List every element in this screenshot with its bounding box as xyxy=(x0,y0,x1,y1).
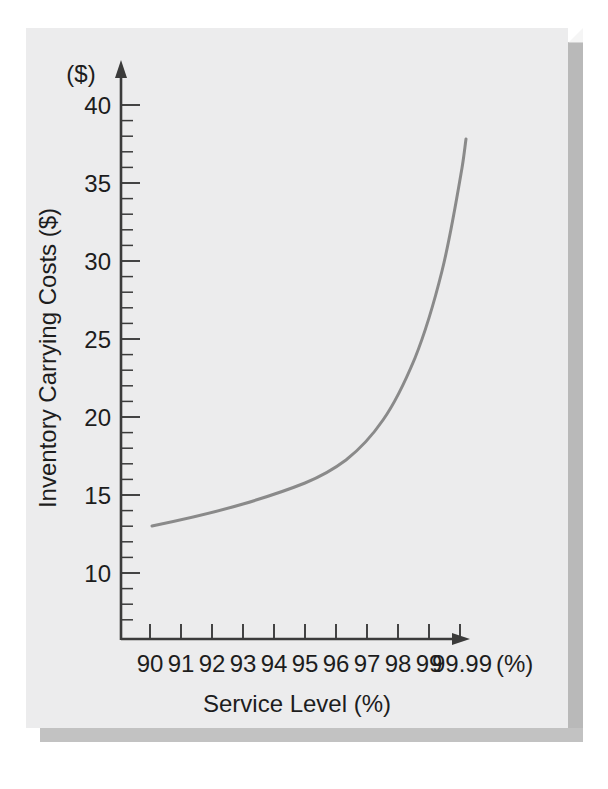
x-tick-label: 93 xyxy=(230,650,257,677)
panel-drop-shadow-bottom xyxy=(40,728,583,742)
figure-panel: 40 35 30 25 20 15 10 90 91 92 93 94 95 9… xyxy=(26,28,568,728)
panel-drop-shadow-right xyxy=(568,42,583,742)
line-chart-svg: 40 35 30 25 20 15 10 90 91 92 93 94 95 9… xyxy=(26,28,568,728)
x-axis-tick-labels: 90 91 92 93 94 95 96 97 98 99 99.99 xyxy=(137,650,492,677)
y-tick-label: 35 xyxy=(84,170,111,197)
x-axis-ticks xyxy=(150,624,460,639)
y-axis-tick-labels: 40 35 30 25 20 15 10 xyxy=(84,92,111,587)
y-tick-label: 15 xyxy=(84,482,111,509)
x-tick-label: 97 xyxy=(354,650,381,677)
y-tick-label: 10 xyxy=(84,560,111,587)
x-axis xyxy=(121,633,470,645)
x-axis-arrow-icon xyxy=(452,633,470,645)
x-tick-label: 91 xyxy=(168,650,195,677)
inventory-cost-curve xyxy=(152,139,466,526)
chart-plot-area: 40 35 30 25 20 15 10 90 91 92 93 94 95 9… xyxy=(26,28,568,728)
y-axis xyxy=(115,60,127,640)
x-tick-label: 99.99 xyxy=(432,650,492,677)
x-axis-unit-label: (%) xyxy=(496,650,533,677)
x-tick-label: 92 xyxy=(199,650,226,677)
y-axis-major-ticks xyxy=(121,105,140,573)
x-tick-label: 98 xyxy=(385,650,412,677)
panel-shadow-corner xyxy=(568,28,583,43)
x-axis-title: Service Level (%) xyxy=(203,690,391,717)
y-tick-label: 40 xyxy=(84,92,111,119)
x-tick-label: 94 xyxy=(261,650,288,677)
y-tick-label: 25 xyxy=(84,326,111,353)
x-tick-label: 95 xyxy=(292,650,319,677)
x-tick-label: 90 xyxy=(137,650,164,677)
y-axis-arrow-icon xyxy=(115,60,127,78)
y-tick-label: 30 xyxy=(84,248,111,275)
y-axis-unit-label: ($) xyxy=(66,60,95,87)
y-axis-title: Inventory Carrying Costs ($) xyxy=(34,208,61,508)
x-tick-label: 96 xyxy=(323,650,350,677)
y-axis-minor-ticks xyxy=(121,121,133,620)
y-tick-label: 20 xyxy=(84,404,111,431)
